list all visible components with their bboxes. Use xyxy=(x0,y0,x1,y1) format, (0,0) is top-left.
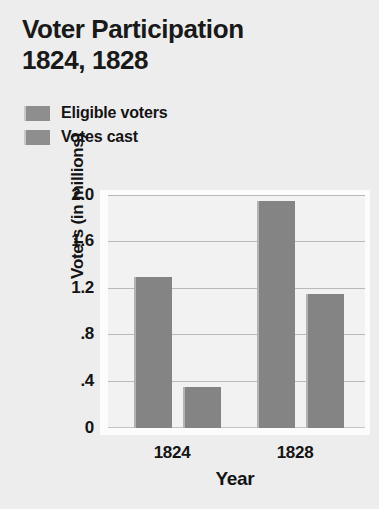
bar-1828-votes-cast[interactable] xyxy=(306,294,344,428)
page-title: Voter Participation 1824, 1828 xyxy=(22,14,362,76)
y-axis-tick-label: .8 xyxy=(32,324,94,344)
x-axis-tick-label: 1824 xyxy=(127,443,217,463)
bar-1824-eligible-voters[interactable] xyxy=(134,277,172,428)
plot-area xyxy=(100,190,370,435)
bar-1828-eligible-voters[interactable] xyxy=(257,201,295,428)
y-axis-tick-label: 1.6 xyxy=(32,231,94,251)
y-axis-ticks: 2.0 1.6 1.2 .8 .4 0 xyxy=(24,190,94,435)
square-swatch-icon xyxy=(24,130,50,145)
y-axis-tick-label: 1.2 xyxy=(32,278,94,298)
page-title-line-2: 1824, 1828 xyxy=(22,45,362,76)
y-axis-tick-label: 2.0 xyxy=(32,185,94,205)
x-axis-title: Year xyxy=(100,468,370,490)
y-axis-tick-label: .4 xyxy=(32,371,94,391)
x-axis-ticks: 1824 1828 xyxy=(100,443,370,467)
y-axis-tick-label: 0 xyxy=(32,418,94,438)
plot-inner-area xyxy=(108,195,365,428)
square-swatch-icon xyxy=(24,106,50,121)
page-title-line-1: Voter Participation xyxy=(22,14,362,45)
x-axis-tick-label: 1828 xyxy=(250,443,340,463)
bars-layer xyxy=(108,195,365,428)
bar-1824-votes-cast[interactable] xyxy=(183,387,221,428)
